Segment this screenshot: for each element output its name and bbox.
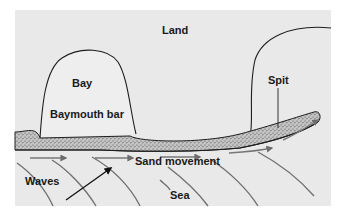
label-land: Land <box>162 24 188 36</box>
label-sand-movement: Sand movement <box>135 155 220 167</box>
label-sea: Sea <box>170 189 190 201</box>
label-spit: Spit <box>268 74 289 86</box>
coastal-diagram: Land Bay Baymouth bar Spit Sand movement… <box>0 0 339 221</box>
label-bay: Bay <box>72 77 93 89</box>
label-waves: Waves <box>25 175 59 187</box>
label-baymouth-bar: Baymouth bar <box>50 108 125 120</box>
